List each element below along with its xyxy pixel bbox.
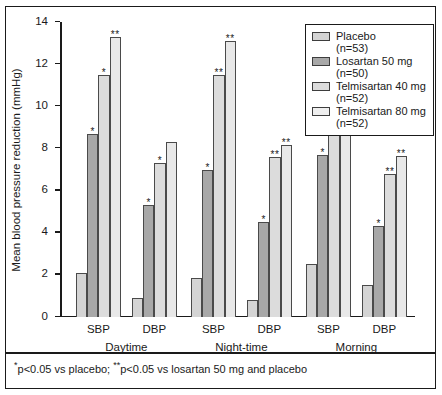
y-tick-label-0: 0	[42, 310, 48, 322]
x-axis-measure-label: DBP	[373, 323, 397, 335]
significance-marker: *	[377, 220, 381, 227]
bar-night-time-sbp-losartan-50-mg: *	[202, 170, 213, 318]
y-tick-14: 14	[55, 21, 60, 23]
legend-n-placebo: (n=53)	[336, 42, 426, 54]
x-axis-measure-label: SBP	[202, 323, 225, 335]
legend-n-telmisartan-40: (n=52)	[336, 92, 426, 104]
y-tick-label-10: 10	[35, 99, 48, 111]
bar-daytime-dbp-telmisartan-80-mg	[166, 142, 177, 317]
legend-label-telmisartan-80: Telmisartan 80 mg	[336, 105, 426, 117]
bar-daytime-sbp-telmisartan-80-mg: **	[110, 37, 121, 317]
significance-marker: *	[102, 69, 106, 76]
y-axis-line	[60, 22, 62, 317]
y-tick-0: 0	[55, 316, 60, 318]
significance-marker: *	[321, 149, 325, 156]
significance-marker: **	[397, 150, 406, 157]
y-tick-label-2: 2	[42, 267, 48, 279]
bar-daytime-dbp-telmisartan-40-mg: *	[154, 163, 165, 317]
significance-marker: **	[226, 35, 235, 42]
legend-item-placebo: Placebo	[312, 30, 426, 42]
y-tick-12: 12	[55, 63, 60, 65]
bar-night-time-dbp-losartan-50-mg: *	[258, 222, 269, 317]
y-axis-title: Mean blood pressure reduction (mmHg)	[8, 22, 24, 317]
bar-daytime-sbp-placebo	[76, 273, 87, 317]
bar-night-time-dbp-placebo	[247, 300, 258, 317]
bar-night-time-dbp-telmisartan-80-mg: **	[281, 145, 292, 317]
legend-swatch-telmisartan-80	[312, 107, 330, 116]
legend-swatch-placebo	[312, 32, 330, 41]
y-tick-4: 4	[55, 231, 60, 233]
significance-marker: **	[271, 151, 280, 158]
y-tick-label-6: 6	[42, 183, 48, 195]
footnote-text-1: p<0.05 vs placebo;	[18, 363, 114, 375]
significance-marker: *	[91, 128, 95, 135]
legend-item-telmisartan-40: Telmisartan 40 mg	[312, 80, 426, 92]
legend-item-losartan: Losartan 50 mg	[312, 55, 426, 67]
legend-n-telmisartan-80: (n=52)	[336, 117, 426, 129]
x-axis-measure-label: DBP	[143, 323, 167, 335]
significance-marker: **	[282, 139, 291, 146]
footnote-text-2: p<0.05 vs losartan 50 mg and placebo	[120, 363, 307, 375]
significance-marker: *	[262, 216, 266, 223]
legend-swatch-telmisartan-40	[312, 82, 330, 91]
bar-morning-sbp-placebo	[306, 264, 317, 317]
bar-night-time-sbp-placebo	[191, 278, 202, 317]
bar-daytime-sbp-losartan-50-mg: *	[87, 134, 98, 317]
significance-marker: **	[111, 31, 120, 38]
y-tick-8: 8	[55, 147, 60, 149]
legend-swatch-losartan	[312, 57, 330, 66]
significance-marker: *	[158, 157, 162, 164]
significance-marker: *	[206, 164, 210, 171]
y-tick-label-8: 8	[42, 141, 48, 153]
legend-label-losartan: Losartan 50 mg	[336, 55, 412, 67]
legend-label-telmisartan-40: Telmisartan 40 mg	[336, 80, 426, 92]
legend: Placebo (n=53) Losartan 50 mg (n=50) Tel…	[305, 24, 434, 136]
x-axis-measure-label: SBP	[87, 323, 110, 335]
bar-daytime-dbp-placebo	[132, 298, 143, 317]
y-tick-2: 2	[55, 273, 60, 275]
x-axis-measure-label: SBP	[317, 323, 340, 335]
footnote: *p<0.05 vs placebo; **p<0.05 vs losartan…	[14, 360, 307, 375]
x-axis-measure-label: DBP	[258, 323, 282, 335]
significance-marker: **	[386, 168, 395, 175]
y-tick-6: 6	[55, 189, 60, 191]
legend-item-telmisartan-80: Telmisartan 80 mg	[312, 105, 426, 117]
bar-morning-dbp-telmisartan-40-mg: **	[384, 174, 395, 317]
bar-morning-dbp-losartan-50-mg: *	[373, 226, 384, 317]
footnote-divider	[5, 352, 436, 354]
significance-marker: **	[215, 69, 224, 76]
bar-night-time-sbp-telmisartan-40-mg: **	[213, 75, 224, 317]
y-tick-10: 10	[55, 105, 60, 107]
bar-morning-dbp-telmisartan-80-mg: **	[396, 156, 407, 317]
bar-night-time-dbp-telmisartan-40-mg: **	[269, 157, 280, 317]
bar-night-time-sbp-telmisartan-80-mg: **	[225, 41, 236, 317]
y-tick-label-4: 4	[42, 225, 48, 237]
bar-morning-dbp-placebo	[362, 285, 373, 317]
y-tick-label-12: 12	[35, 57, 48, 69]
bar-daytime-sbp-telmisartan-40-mg: *	[98, 75, 109, 317]
bar-morning-sbp-losartan-50-mg: *	[317, 155, 328, 317]
figure-container: Mean blood pressure reduction (mmHg) 024…	[0, 0, 442, 395]
legend-label-placebo: Placebo	[336, 30, 376, 42]
y-axis-title-text: Mean blood pressure reduction (mmHg)	[10, 68, 22, 271]
bar-daytime-dbp-losartan-50-mg: *	[143, 205, 154, 317]
legend-n-losartan: (n=50)	[336, 67, 426, 79]
y-tick-label-14: 14	[35, 15, 48, 27]
significance-marker: *	[147, 199, 151, 206]
